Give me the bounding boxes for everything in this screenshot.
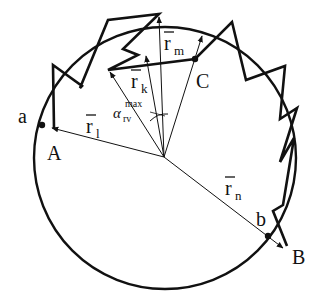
label-alpha-rv-max: α max rv (113, 98, 142, 124)
diagram-canvas: a A C b B r l r k r m r n α (0, 0, 325, 302)
svg-text:r: r (164, 32, 171, 54)
svg-text:n: n (235, 188, 242, 203)
point-a-dot (39, 122, 45, 128)
label-A: A (47, 142, 62, 164)
label-rk: r k (131, 70, 148, 96)
svg-text:r: r (131, 70, 138, 92)
svg-text:m: m (174, 43, 184, 58)
point-b-dot (265, 233, 271, 239)
vector-r1 (52, 128, 164, 157)
svg-text:α: α (113, 105, 122, 121)
vector-rn (164, 157, 283, 248)
label-b: b (256, 208, 266, 230)
alpha-angle-arc (150, 114, 168, 121)
label-rm: r m (164, 32, 184, 58)
label-C: C (196, 70, 209, 92)
label-rn: r n (225, 177, 242, 203)
point-C-dot (192, 56, 198, 62)
label-a: a (18, 105, 27, 127)
svg-text:rv: rv (123, 113, 131, 124)
svg-text:r: r (86, 115, 93, 137)
svg-text:l: l (96, 126, 100, 141)
svg-text:k: k (141, 81, 148, 96)
svg-text:r: r (225, 177, 232, 199)
svg-text:max: max (125, 98, 142, 109)
diagram-svg: a A C b B r l r k r m r n α (0, 0, 325, 302)
label-B: B (292, 246, 305, 268)
